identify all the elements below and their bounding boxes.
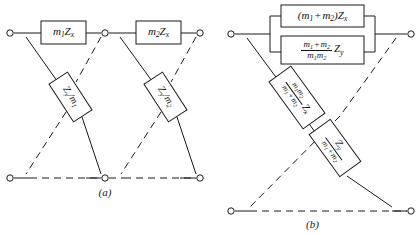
wire-b-diag-solid-3 — [347, 176, 392, 207]
terminal-a-bottom-left[interactable] — [7, 175, 13, 181]
label-sub-y: y — [63, 91, 71, 97]
caption-panel-b: (b) — [205, 218, 420, 230]
label-sub-2: 2 — [332, 158, 338, 164]
parallel-box-top-label: (m1 + m2)Zx — [281, 5, 364, 27]
label-m: m — [322, 9, 330, 21]
label-m: m — [303, 39, 310, 49]
label-paren-open: ( — [298, 9, 302, 21]
wire-a-diag2-dash-lower — [121, 112, 161, 174]
label-Z: Z — [300, 102, 312, 113]
terminal-a-bottom-mid[interactable] — [102, 175, 108, 181]
label-Z: Z — [334, 42, 340, 54]
label-m: m — [307, 50, 314, 60]
label-sub-y: y — [158, 91, 166, 97]
label-sub-1: 1 — [61, 30, 65, 39]
terminal-b-bottom-left[interactable] — [228, 208, 234, 214]
label-m: m — [67, 94, 80, 106]
label-paren-close: ) — [334, 9, 338, 21]
terminal-b-top-left[interactable] — [228, 31, 234, 37]
terminal-b-bottom-right[interactable] — [408, 208, 414, 214]
label-sub-1: 1 — [314, 54, 317, 60]
label-Z: Z — [160, 25, 166, 37]
label-slash: / — [161, 91, 172, 99]
label-plus: + — [286, 91, 296, 101]
label-sub-1: 1 — [293, 87, 299, 93]
label-m: m — [280, 83, 291, 93]
label-sub-y: y — [340, 47, 344, 56]
label-m: m — [148, 25, 156, 37]
label-sub-x: x — [344, 14, 347, 23]
label-m: m — [289, 96, 300, 106]
label-plus: + — [314, 9, 321, 21]
label-plus: + — [325, 146, 335, 156]
label-sub-2: 2 — [156, 30, 160, 39]
label-m: m — [320, 139, 331, 149]
label-sub-2: 2 — [298, 94, 304, 100]
label-sub-1: 1 — [309, 14, 313, 23]
label-Z: Z — [338, 9, 344, 21]
terminal-b-top-right[interactable] — [408, 31, 414, 37]
label-sub-x: x — [166, 30, 169, 39]
label-sub-1: 1 — [323, 146, 329, 152]
label-Z: Z — [156, 84, 168, 95]
label-m: m — [329, 151, 340, 161]
label-Z: Z — [333, 137, 345, 148]
wire-a-diag2-solid-lower — [177, 117, 196, 174]
label-sub-2: 2 — [327, 43, 330, 49]
label-sub-2: 2 — [292, 103, 298, 109]
parallel-box-bottom-label: m1 + m2 m1m2 Zy — [281, 36, 364, 64]
label-m: m — [295, 87, 306, 97]
label-sub-2: 2 — [330, 14, 334, 23]
series-box-1-label: m1Zx — [41, 21, 86, 44]
fraction-numerator: m1 + m2 — [301, 40, 332, 51]
fraction-m-sum-over-m-prod: m1 + m2 m1m2 — [301, 40, 332, 61]
label-sub-1: 1 — [70, 102, 78, 109]
label-m: m — [162, 94, 175, 106]
label-m: m — [317, 50, 324, 60]
terminal-a-top-left[interactable] — [7, 30, 13, 36]
label-sub-y: y — [335, 145, 343, 152]
label-slash: / — [66, 91, 77, 99]
terminal-a-bottom-right[interactable] — [197, 175, 203, 181]
label-m: m — [301, 9, 309, 21]
label-sub-1: 1 — [310, 43, 313, 49]
label-sub-2: 2 — [323, 54, 326, 60]
label-m: m — [53, 25, 61, 37]
label-sub-x: x — [302, 109, 310, 116]
series-box-2-label: m2Zx — [136, 21, 181, 44]
caption-panel-a: (a) — [0, 186, 210, 198]
label-Z: Z — [61, 84, 73, 95]
label-sub-2: 2 — [165, 102, 173, 109]
label-Z: Z — [65, 25, 71, 37]
label-m: m — [290, 80, 301, 90]
figure-root: m1Zx m2Zx Zy/m1 Zy/m2 (m1 + m2)Zx m1 + m… — [0, 0, 420, 235]
label-plus: + — [314, 39, 320, 49]
label-sub-x: x — [71, 30, 74, 39]
label-m: m — [321, 39, 328, 49]
wire-a-diag1-solid-lower — [82, 117, 101, 174]
terminal-a-top-right[interactable] — [197, 30, 203, 36]
terminal-a-top-mid[interactable] — [102, 30, 108, 36]
fraction-denominator: m1m2 — [301, 51, 332, 61]
wire-a-diag1-dash-lower — [26, 112, 66, 174]
label-sub-1: 1 — [283, 90, 289, 96]
